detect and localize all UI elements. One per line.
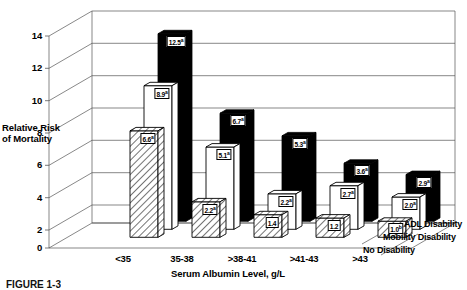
- footnote-marker: a: [351, 189, 354, 195]
- footnote-marker: a: [427, 178, 430, 184]
- value-label-adl-g4: 3.6a: [354, 165, 369, 176]
- value-label-mobility-g1: 8.9a: [154, 88, 169, 99]
- value-label-nodisability-g2: 2.2a: [202, 204, 217, 215]
- y-tick-2: 2: [24, 224, 42, 235]
- value-text: 6.6: [142, 136, 151, 143]
- value-text: 12.5: [169, 39, 181, 46]
- y-tick-12: 12: [24, 62, 42, 73]
- footnote-marker: a: [181, 37, 184, 43]
- value-text: 5.3: [294, 141, 303, 148]
- value-label-mobility-g5: 2.0a: [402, 199, 417, 210]
- legend-item-none: No Disability: [363, 245, 415, 255]
- footnote-marker: a: [241, 116, 244, 122]
- y-tick-4: 4: [24, 192, 42, 203]
- footnote-marker: a: [365, 166, 368, 172]
- footnote-marker: a: [213, 205, 216, 211]
- x-tick-0: <35: [103, 253, 143, 264]
- footnote-marker: a: [227, 150, 230, 156]
- value-label-mobility-g2: 5.1a: [216, 149, 231, 160]
- value-text: 5.1: [218, 152, 227, 159]
- value-text: 2.7: [342, 191, 351, 198]
- footnote-marker: b: [399, 224, 402, 230]
- footnote-marker: a: [413, 200, 416, 206]
- value-text: 6.7: [232, 118, 241, 125]
- value-label-adl-g3: 5.3a: [292, 138, 307, 149]
- value-text: 1.2: [330, 223, 339, 230]
- value-label-adl-g1: 12.5a: [167, 36, 186, 47]
- y-axis-title-line2: of Mortality: [2, 133, 52, 144]
- footnote-marker: a: [289, 197, 292, 203]
- value-label-mobility-g4: 2.7a: [340, 188, 355, 199]
- y-tick-10: 10: [24, 95, 42, 106]
- value-text: 1.0: [390, 226, 399, 233]
- value-label-nodisability-g4: 1.2: [328, 220, 341, 231]
- x-tick-3: >41-43: [278, 253, 330, 264]
- value-label-adl-g2: 6.7a: [230, 115, 245, 126]
- x-tick-1: 35-38: [158, 253, 206, 264]
- y-axis-title-line1: Relative Risk: [2, 122, 60, 133]
- value-text: 2.0: [404, 202, 413, 209]
- value-label-nodisability-g3: 1.4: [266, 217, 279, 228]
- value-text: 3.6: [356, 168, 365, 175]
- value-text: 1.4: [268, 220, 277, 227]
- figure-caption: FIGURE 1-3: [6, 279, 61, 290]
- value-text: 2.2: [204, 207, 213, 214]
- legend-item-adl: ADL Disability: [404, 219, 462, 229]
- y-tick-6: 6: [24, 159, 42, 170]
- value-text: 2.9: [418, 180, 427, 187]
- x-tick-2: >38-41: [216, 253, 268, 264]
- value-label-nodisability-g5: 1.0b: [388, 223, 403, 234]
- y-tick-0: 0: [24, 242, 42, 253]
- value-label-mobility-g3: 2.2a: [278, 196, 293, 207]
- footnote-marker: a: [151, 134, 154, 140]
- value-text: 2.2: [280, 199, 289, 206]
- footnote-marker: a: [165, 89, 168, 95]
- value-label-nodisability-g1: 6.6a: [140, 133, 155, 144]
- footnote-marker: a: [303, 139, 306, 145]
- y-tick-14: 14: [24, 30, 42, 41]
- x-axis-title: Serum Albumin Level, g/L: [118, 268, 338, 279]
- value-label-adl-g5: 2.9a: [416, 177, 431, 188]
- value-text: 8.9: [156, 91, 165, 98]
